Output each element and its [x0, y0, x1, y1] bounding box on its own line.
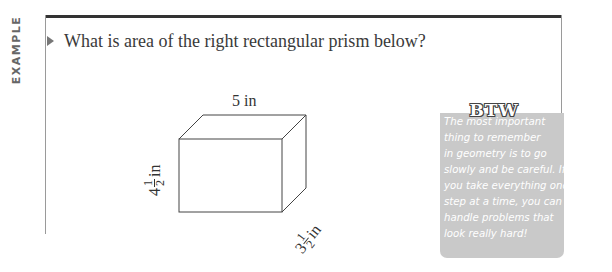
btw-line: look really hard!: [444, 226, 562, 242]
btw-line: you take everything one: [444, 178, 562, 194]
prism-top-face: [179, 115, 306, 139]
height-whole: 4: [146, 188, 164, 196]
btw-line: The most important: [444, 114, 562, 130]
btw-line: step at a time, you can: [444, 194, 562, 210]
btw-line: slowly and be careful. If: [444, 162, 562, 178]
btw-text: The most important thing to remember in …: [444, 114, 562, 242]
btw-line: in geometry is to go: [444, 146, 562, 162]
height-label: 4 12 in: [143, 165, 166, 196]
prism-side-face: [282, 115, 306, 212]
prism-front-face: [179, 139, 282, 212]
height-unit: in: [146, 165, 164, 177]
length-label: 5 in: [232, 92, 256, 110]
btw-line: handle problems that: [444, 210, 562, 226]
height-denominator: 2: [155, 180, 166, 186]
btw-line: thing to remember: [444, 130, 562, 146]
